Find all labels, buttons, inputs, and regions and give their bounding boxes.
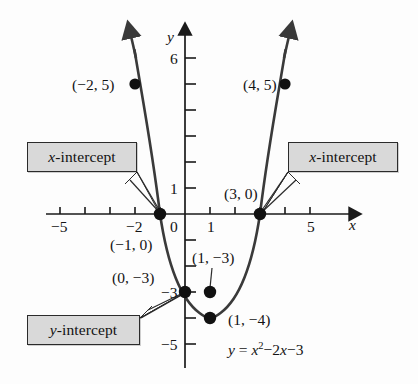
equation-label: y = x2−2x−3 bbox=[228, 341, 303, 358]
x-tick-label-5: 5 bbox=[307, 219, 315, 235]
x-tick-label--2: −2 bbox=[126, 219, 143, 235]
callout-x-right-label: -intercept bbox=[316, 148, 376, 165]
point-label-1-neg4: (1, −4) bbox=[228, 312, 270, 328]
point-label-4-5: (4, 5) bbox=[243, 77, 277, 93]
point-neg2-5 bbox=[129, 78, 140, 89]
point-0-neg3 bbox=[179, 286, 191, 298]
parabola-figure: x-intercept x-intercept y-intercept x y … bbox=[0, 0, 418, 384]
callout-x-intercept-left[interactable]: x-intercept bbox=[27, 142, 137, 172]
equation-eq: = bbox=[235, 341, 252, 358]
point-3-0 bbox=[254, 208, 266, 220]
point-label-3-0: (3, 0) bbox=[224, 186, 258, 202]
y-tick-label--5: −5 bbox=[161, 337, 178, 353]
x-axis bbox=[46, 207, 350, 214]
y-axis-label: y bbox=[167, 29, 174, 45]
point-label-0-neg3: (0, −3) bbox=[112, 270, 154, 286]
callout-y-intercept[interactable]: y-intercept bbox=[27, 315, 140, 345]
point-1-neg4 bbox=[204, 312, 216, 324]
point-label-1-neg3: (1, −3) bbox=[192, 250, 234, 266]
y-tick-label-6: 6 bbox=[170, 51, 178, 67]
equation-rest: −2x−3 bbox=[264, 341, 304, 358]
callout-x-intercept-right[interactable]: x-intercept bbox=[288, 142, 398, 172]
point-4-5 bbox=[279, 78, 290, 89]
equation-lhs: y bbox=[228, 341, 235, 358]
origin-label: 0 bbox=[170, 219, 178, 235]
y-tick-label-1: 1 bbox=[170, 181, 178, 197]
x-tick-label--5: −5 bbox=[51, 219, 68, 235]
y-axis bbox=[185, 34, 196, 368]
callout-y-prefix: y bbox=[50, 321, 57, 338]
point-neg1-0 bbox=[154, 208, 166, 220]
point-2-neg3 bbox=[204, 286, 216, 298]
x-tick-label-1: 1 bbox=[207, 219, 215, 235]
callout-x-left-label: -intercept bbox=[55, 148, 115, 165]
x-axis-label: x bbox=[349, 217, 356, 233]
callout-leader-point-1-neg3 bbox=[210, 268, 212, 288]
y-tick-label--3: −3 bbox=[161, 285, 178, 301]
callout-y-label: -intercept bbox=[57, 321, 117, 338]
point-label-neg1-0: (−1, 0) bbox=[110, 237, 152, 253]
point-label-neg2-5: (−2, 5) bbox=[72, 77, 114, 93]
